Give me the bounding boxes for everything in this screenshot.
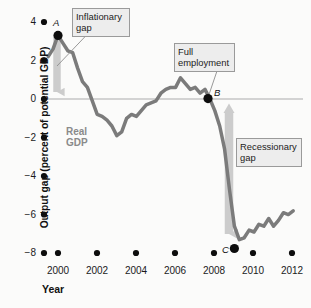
data-point-b [203,94,212,103]
y-axis-title: Output gap (percent of potential GDP) [39,32,50,244]
chart-figure: Output gap (percent of potential GDP) 4 … [0,0,311,308]
y-tick-label-minus-2: −2 [14,132,36,143]
data-point-a [53,31,62,40]
annotation-recessionary-gap: Recessionary gap [236,138,302,167]
y-tick-label-0: 0 [14,93,36,104]
annotation-inflationary-gap: Inflationary gap [72,8,130,37]
x-axis-title: Year [42,283,64,295]
x-axis-tick-markers [55,250,295,256]
point-label-b: B [214,87,220,98]
y-tick-label-minus-8: −8 [14,247,36,258]
x-tick-label-2012: 2012 [268,265,311,276]
series-label-real-gdp: Real GDP [66,126,88,148]
recessionary-gap-arrow-head-up [224,104,235,113]
y-tick-label-minus-6: −6 [14,209,36,220]
annotation-full-employment: Full employment [174,43,235,72]
y-tick-label-minus-4: −4 [14,170,36,181]
point-label-a: A [53,17,59,28]
point-label-c: C [222,244,229,255]
y-tick-label-2: 2 [14,55,36,66]
data-point-c [230,244,239,253]
y-tick-label-4: 4 [14,16,36,27]
